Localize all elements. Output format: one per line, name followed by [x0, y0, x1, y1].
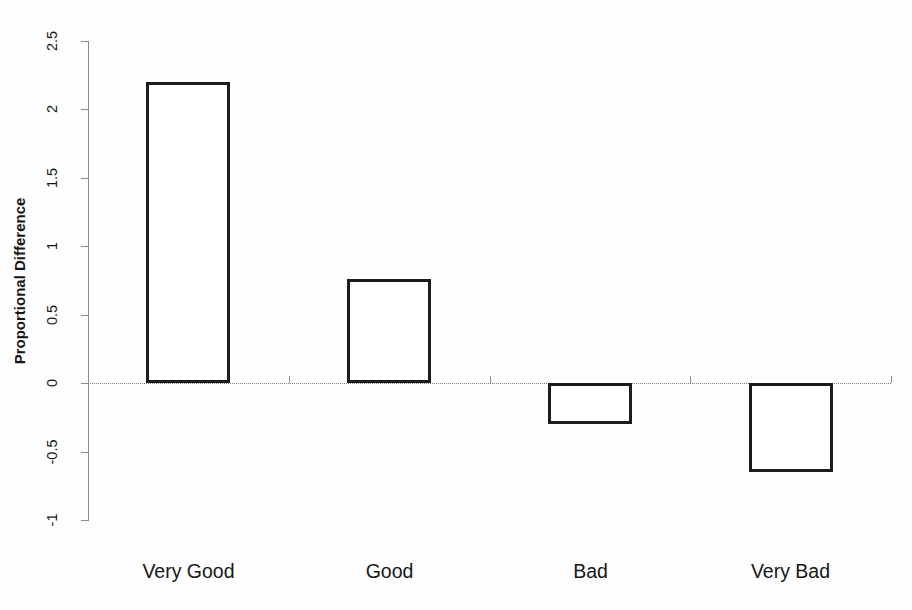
y-axis-tick: [81, 452, 88, 453]
y-axis-tick-label: -0.5: [30, 442, 74, 462]
y-axis-tick: [81, 109, 88, 110]
y-axis-tick-label-text: 0.5: [44, 305, 60, 325]
y-axis-tick-label-text: 2: [44, 105, 60, 113]
y-axis-tick-label: 0: [30, 373, 74, 393]
bar: [146, 82, 230, 383]
y-axis-tick: [81, 41, 88, 42]
y-axis-line: [88, 41, 89, 521]
y-axis-tick: [81, 383, 88, 384]
bar: [749, 383, 833, 472]
y-axis-tick-label: 1.5: [30, 168, 74, 188]
y-axis-tick-label-text: 1: [44, 242, 60, 250]
y-axis-tick: [81, 520, 88, 521]
bar: [347, 279, 431, 383]
category-tick: [891, 376, 892, 383]
x-axis-label: Bad: [490, 556, 691, 586]
y-axis-tick-label-text: -1: [44, 514, 60, 527]
y-axis-tick-label: -1: [30, 510, 74, 530]
y-axis-tick-label: 0.5: [30, 305, 74, 325]
x-axis-label: Very Bad: [690, 556, 891, 586]
y-axis-tick-label-text: 1.5: [44, 168, 60, 188]
bar: [548, 383, 632, 424]
y-axis-tick-label-text: 2.5: [44, 31, 60, 51]
y-axis-tick-label: 2.5: [30, 31, 74, 51]
y-axis-tick-label: 2: [30, 99, 74, 119]
category-tick: [490, 376, 491, 383]
y-axis-tick: [81, 315, 88, 316]
y-axis-tick-label: 1: [30, 236, 74, 256]
bar-chart: Proportional Difference 2.521.510.50-0.5…: [0, 0, 912, 610]
y-axis-tick-label-text: -0.5: [44, 439, 60, 464]
category-tick: [289, 376, 290, 383]
x-axis-label: Very Good: [88, 556, 289, 586]
y-axis-title: Proportional Difference: [8, 41, 30, 520]
x-axis-label: Good: [289, 556, 490, 586]
y-axis-tick-label-text: 0: [44, 379, 60, 387]
y-axis-tick: [81, 178, 88, 179]
y-axis-tick: [81, 246, 88, 247]
y-axis-title-text: Proportional Difference: [11, 197, 28, 364]
category-tick: [690, 376, 691, 383]
